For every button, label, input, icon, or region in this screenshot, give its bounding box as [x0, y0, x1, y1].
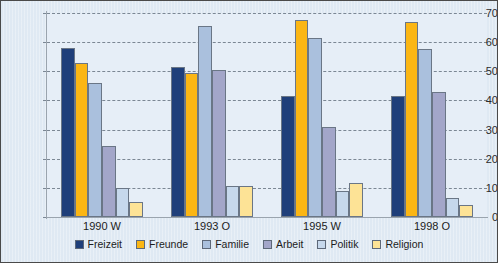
bar-freizeit-1990-w	[61, 48, 75, 217]
legend-item-religion[interactable]: Religion	[372, 238, 423, 250]
bar-politik-1995-w	[336, 191, 350, 217]
y-tick-label: 20	[458, 153, 498, 165]
y-axis-line	[46, 11, 47, 219]
bar-freizeit-1995-w	[281, 96, 295, 217]
legend-swatch-icon	[317, 240, 326, 249]
bar-freunde-1995-w	[295, 20, 309, 217]
bar-freizeit-1993-o	[171, 67, 185, 217]
gridline	[47, 42, 487, 43]
legend-swatch-icon	[75, 240, 84, 249]
x-tick-label: 1998 O	[377, 220, 487, 232]
y-tick-label: 70	[458, 7, 498, 19]
y-tick-label: 40	[458, 94, 498, 106]
bar-familie-1995-w	[308, 38, 322, 217]
legend-label: Freizeit	[88, 238, 122, 250]
bar-politik-1990-w	[116, 188, 130, 217]
bar-politik-1993-o	[226, 186, 240, 217]
bar-familie-1993-o	[198, 26, 212, 217]
legend-label: Freunde	[149, 238, 188, 250]
x-tick-label: 1990 W	[47, 220, 157, 232]
legend-swatch-icon	[136, 240, 145, 249]
legend-item-politik[interactable]: Politik	[317, 238, 358, 250]
bar-freunde-1998-o	[405, 22, 419, 217]
bar-religion-1993-o	[239, 186, 253, 217]
bar-religion-1998-o	[459, 205, 473, 217]
bar-freunde-1993-o	[185, 73, 199, 217]
legend-label: Politik	[330, 238, 358, 250]
y-tick-label: 10	[458, 182, 498, 194]
y-tick-label: 60	[458, 36, 498, 48]
legend-swatch-icon	[372, 240, 381, 249]
legend-item-familie[interactable]: Familie	[202, 238, 249, 250]
chart-legend: FreizeitFreundeFamilieArbeitPolitikRelig…	[0, 238, 498, 250]
legend-label: Arbeit	[276, 238, 303, 250]
bar-arbeit-1993-o	[212, 70, 226, 217]
x-axis-line	[46, 217, 488, 218]
legend-item-freizeit[interactable]: Freizeit	[75, 238, 122, 250]
legend-swatch-icon	[263, 240, 272, 249]
bar-arbeit-1995-w	[322, 127, 336, 217]
bar-politik-1998-o	[446, 198, 460, 217]
x-tick-label: 1993 O	[157, 220, 267, 232]
bar-familie-1998-o	[418, 49, 432, 217]
gridline	[47, 13, 487, 14]
legend-item-freunde[interactable]: Freunde	[136, 238, 188, 250]
bar-familie-1990-w	[88, 83, 102, 217]
bar-freizeit-1998-o	[391, 96, 405, 217]
bar-freunde-1990-w	[75, 63, 89, 217]
x-tick-label: 1995 W	[267, 220, 377, 232]
bar-religion-1990-w	[129, 202, 143, 217]
y-tick-label: 50	[458, 65, 498, 77]
bar-arbeit-1990-w	[102, 146, 116, 217]
legend-label: Familie	[215, 238, 249, 250]
bar-arbeit-1998-o	[432, 92, 446, 217]
y-tick-label: 30	[458, 124, 498, 136]
legend-item-arbeit[interactable]: Arbeit	[263, 238, 303, 250]
bar-religion-1995-w	[349, 183, 363, 217]
chart-container: 010203040506070 1990 W1993 O1995 W1998 O…	[0, 0, 498, 263]
legend-label: Religion	[385, 238, 423, 250]
legend-swatch-icon	[202, 240, 211, 249]
